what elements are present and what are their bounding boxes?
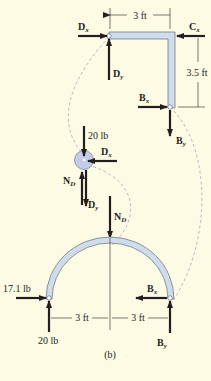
dimension-3ft-top: 3 ft	[110, 8, 170, 29]
dim-label-left-3ft: 3 ft	[75, 312, 89, 323]
label-by-arch: By	[157, 337, 168, 350]
dim-label-right-3ft: 3 ft	[131, 312, 145, 323]
pin-arch-left	[47, 296, 51, 300]
label-nd-arch: ND	[114, 211, 126, 224]
label-dy-frame: Dy	[113, 68, 124, 81]
dim-label-3ft: 3 ft	[133, 10, 147, 21]
pin-d	[107, 34, 111, 38]
connector-b-to-arch-right	[170, 107, 202, 305]
label-cx: Cx	[189, 21, 200, 34]
label-nd-pulley: ND	[63, 175, 75, 188]
label-dx-frame: Dx	[78, 21, 89, 34]
figure-label: (b)	[104, 349, 116, 361]
label-dy-pulley: Dy	[88, 199, 99, 212]
dim-label-3-5ft: 3.5 ft	[186, 67, 207, 78]
pin-arch-right	[168, 296, 172, 300]
pin-b	[168, 105, 172, 109]
label-by-frame: By	[176, 135, 187, 148]
label-bx-arch: Bx	[147, 283, 158, 296]
free-body-diagram: 3 ft 3.5 ft Dx Dy Cx Bx By 20 lb Dx ND D…	[0, 0, 211, 381]
label-weight-20lb: 20 lb	[88, 130, 108, 141]
label-20lb-arch: 20 lb	[38, 335, 58, 346]
dimension-3-5ft: 3.5 ft	[178, 38, 208, 107]
label-17-1lb: 17.1 lb	[3, 283, 31, 294]
dimension-arch-bottom: 3 ft 3 ft	[51, 312, 168, 323]
label-bx-frame: Bx	[139, 92, 150, 105]
pulley-center	[83, 159, 85, 161]
label-dx-pulley: Dx	[101, 146, 112, 159]
